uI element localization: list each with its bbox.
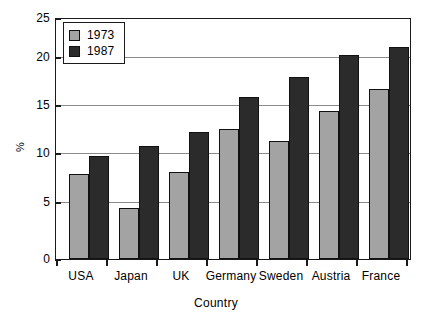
bar-france-1987 [389,47,409,259]
x-tick-label-germany: Germany [204,269,258,283]
bar-sweden-1973 [269,141,289,259]
x-tick-label-sweden: Sweden [256,269,306,283]
bar-uk-1987 [189,132,209,259]
y-axis-title: % [14,142,26,152]
x-tick-mark-2 [156,260,158,266]
x-tick-label-austria: Austria [306,269,356,283]
x-tick-label-usa: USA [56,269,106,283]
bar-germany-1973 [219,129,239,259]
legend-item-1987: 1987 [69,43,115,59]
x-tick-mark-3 [206,260,208,266]
x-tick-mark-5 [306,260,308,266]
y-tick-label-25: 25 [20,12,50,24]
y-axis-tick-labels: 25 20 15 10 5 0 [14,0,50,318]
bar-france-1973 [369,89,389,259]
legend-label-1987: 1987 [87,45,115,58]
x-tick-mark-6 [356,260,358,266]
x-tick-mark-1 [106,260,108,266]
bar-usa-1987 [89,156,109,259]
bar-germany-1987 [239,97,259,259]
bar-chart: 25 20 15 10 5 0 % USA Japan UK Germany S… [0,0,432,318]
y-tick-mark-15 [55,105,61,107]
bar-austria-1973 [319,111,339,259]
x-tick-mark-4 [256,260,258,266]
bar-japan-1987 [139,146,159,259]
bar-austria-1987 [339,55,359,259]
x-tick-label-france: France [356,269,406,283]
y-tick-label-15: 15 [20,99,50,111]
bar-uk-1973 [169,172,189,259]
y-tick-mark-20 [55,57,61,59]
legend: 1973 1987 [63,22,125,64]
x-axis-title: Country [0,296,432,310]
y-tick-label-20: 20 [20,51,50,63]
y-tick-mark-25 [55,18,61,20]
x-tick-mark-7 [406,260,408,266]
bar-japan-1973 [119,208,139,259]
legend-item-1973: 1973 [69,27,115,43]
bar-sweden-1987 [289,77,309,259]
bar-usa-1973 [69,174,89,259]
x-tick-label-japan: Japan [106,269,156,283]
x-tick-label-uk: UK [156,269,206,283]
x-tick-mark-0 [56,260,58,266]
y-tick-mark-10 [55,153,61,155]
y-tick-mark-5 [55,202,61,204]
legend-swatch-1987-icon [69,46,80,57]
legend-label-1973: 1973 [87,29,115,42]
y-tick-label-5: 5 [20,196,50,208]
legend-swatch-1973-icon [69,30,80,41]
y-tick-label-0: 0 [20,253,50,265]
